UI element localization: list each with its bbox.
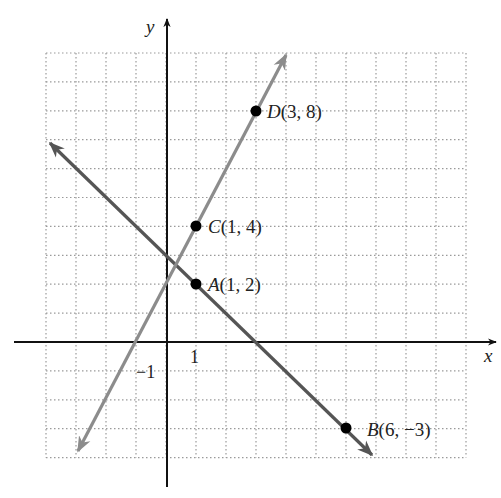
point-b-coords: (6, −3) <box>379 419 431 441</box>
point-a-letter: A <box>206 274 220 295</box>
line-ab <box>50 143 372 455</box>
point-c-letter: C <box>208 216 221 237</box>
x-axis-label: x <box>483 345 493 366</box>
svg-text:C(1, 4): C(1, 4) <box>208 216 262 238</box>
point-d-letter: D <box>266 101 281 122</box>
point-b-letter: B <box>367 419 379 440</box>
coordinate-plane: x y 1 −1 D(3, 8) C(1, 4) A(1, 2) B(6, −3… <box>0 0 501 498</box>
point-b-dot <box>341 423 352 434</box>
point-c-dot <box>191 221 202 232</box>
point-a-coords: (1, 2) <box>220 274 261 296</box>
svg-text:A(1, 2): A(1, 2) <box>206 274 261 296</box>
point-a: A(1, 2) <box>191 274 261 296</box>
x-tick-label-1: 1 <box>190 347 199 367</box>
y-tick-label-minus-1: −1 <box>136 362 155 382</box>
point-a-dot <box>191 279 202 290</box>
point-d-dot <box>251 106 262 117</box>
svg-text:D(3, 8): D(3, 8) <box>266 101 322 123</box>
svg-text:B(6, −3): B(6, −3) <box>367 419 430 441</box>
point-c-coords: (1, 4) <box>221 216 262 238</box>
y-axis-label: y <box>144 16 155 37</box>
point-d-coords: (3, 8) <box>281 101 322 123</box>
